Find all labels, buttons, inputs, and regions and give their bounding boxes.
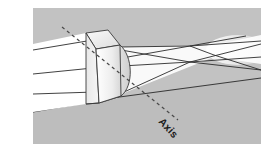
collimated-input-beam [33,33,86,112]
lens-front-face [96,45,121,103]
ray-diagram-svg: Axis [0,0,276,154]
optics-figure-root: Axis [0,0,276,154]
